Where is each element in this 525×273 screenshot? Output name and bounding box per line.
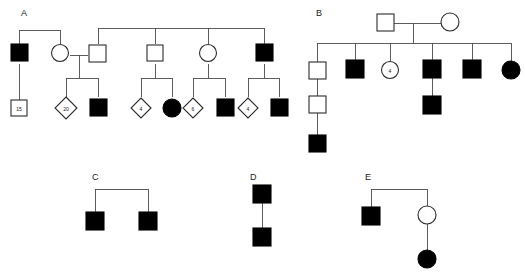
famE-sib2-female-unaffected[interactable] [418,206,436,224]
famB-mother-unaffected[interactable] [441,13,459,31]
famA-child-diamond-4b[interactable]: 4 [238,98,258,118]
family-b: B 4 [309,8,520,152]
famB-child4-son-male-affected[interactable] [423,96,441,114]
famD-parent-male-affected[interactable] [253,185,271,203]
famB-child6-female-affected[interactable] [502,61,520,79]
famB-child4-male-affected[interactable] [423,60,441,78]
famB-grandchild-male-unaffected[interactable] [309,96,326,113]
famA-spouse-male-unaffected[interactable] [89,45,106,62]
famB-greatgrandchild-male-affected[interactable] [309,135,326,152]
family-c: C [86,172,157,230]
famB-child5-male-affected[interactable] [463,60,481,78]
famA-sib2-male-unaffected[interactable] [147,45,163,61]
famA-sib3-female-unaffected[interactable] [200,45,217,62]
pedigree-page: A [0,0,525,273]
famB-child3-female-circle-4[interactable]: 4 [382,62,399,79]
famD-child-male-affected[interactable] [253,228,271,246]
famA-child-diamond-4a[interactable]: 4 [131,98,151,118]
famA-sib4-male-affected[interactable] [256,44,273,61]
famA-gen1-male-affected[interactable] [11,44,28,61]
famA-child-diamond-6[interactable]: 6 [183,98,203,118]
famA-child-diamond-4a-value: 4 [140,106,143,112]
famA-child-square-15[interactable]: 15 [11,100,27,116]
pedigree-diagram: A [0,0,525,273]
family-a: A [11,8,288,119]
famC-sib2-male-affected[interactable] [139,212,157,230]
famB-child2-male-affected[interactable] [346,60,364,78]
famA-child-diamond-20[interactable]: 20 [55,97,77,119]
famA-child-male-affected-3[interactable] [271,99,288,116]
famA-child-diamond-20-value: 20 [63,106,69,112]
family-b-label: B [316,8,322,18]
famA-child-diamond-4b-value: 4 [247,106,250,112]
famC-sib1-male-affected[interactable] [86,212,104,230]
famB-child1-male-unaffected[interactable] [309,62,326,79]
family-d-label: D [250,172,257,182]
famA-child-diamond-6-value: 6 [192,106,195,112]
famA-child-male-affected-2[interactable] [217,99,234,116]
famE-daughter-female-affected[interactable] [418,250,436,268]
famA-child-square-15-value: 15 [16,106,22,112]
famB-child3-value: 4 [389,68,392,74]
famA-gen1-female-unaffected[interactable] [52,45,69,62]
family-a-label: A [21,8,27,18]
family-e: E [362,172,436,268]
famE-sib1-male-affected[interactable] [362,207,380,225]
famA-child-male-affected-1[interactable] [90,99,107,116]
famA-child-female-affected[interactable] [163,99,181,117]
famB-father-unaffected[interactable] [377,14,394,31]
family-d: D [250,172,271,246]
family-c-label: C [92,172,99,182]
family-e-label: E [365,172,371,182]
